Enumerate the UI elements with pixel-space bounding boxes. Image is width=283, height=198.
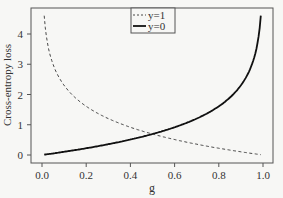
y-tick-label: 4 [18,28,24,40]
x-tick-label: 0.0 [35,169,49,181]
legend: y=1 y=0 [131,8,175,33]
x-axis-label: g [149,181,155,195]
legend-label-y0: y=0 [148,20,166,32]
x-tick-label: 1.0 [256,169,270,181]
x-tick-label: 0.8 [212,169,226,181]
cross-entropy-chart: 0.00.20.40.60.81.001234 g Cross-entropy … [0,0,283,198]
y-tick-label: 1 [18,119,24,131]
series-line-y0 [44,16,261,155]
y-axis-label: Cross-entropy loss [1,44,13,126]
y-tick-label: 3 [18,58,24,70]
y-tick-label: 0 [18,149,24,161]
x-tick-label: 0.2 [79,169,93,181]
x-tick-label: 0.6 [168,169,182,181]
x-tick-label: 0.4 [124,169,138,181]
y-tick-label: 2 [18,89,24,101]
